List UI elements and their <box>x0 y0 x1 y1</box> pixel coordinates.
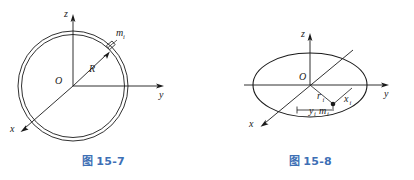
radius-arrow-head <box>103 51 110 59</box>
z-axis-label: z <box>63 8 68 19</box>
caption-prefix-left: 图 <box>82 155 93 168</box>
figure-15-7: z y x O R m i 图15-7 <box>0 0 207 180</box>
x-coordinate-label: x <box>343 93 349 104</box>
y-axis-label: y <box>158 89 164 100</box>
radial-distance-label: r <box>317 90 321 101</box>
caption-prefix-right: 图 <box>289 155 300 168</box>
figure-15-8-caption: 图15-8 <box>207 152 414 168</box>
figure-15-8-drawing: z y x O r i y i x i <box>207 0 414 152</box>
origin-label: O <box>55 75 62 86</box>
y-axis-label: y <box>383 88 389 99</box>
x-axis-label: x <box>248 118 254 129</box>
mass-element-subscript: i <box>123 33 125 40</box>
mass-element-leader-line <box>113 40 117 44</box>
radius-label: R <box>88 63 95 74</box>
figure-15-7-drawing: z y x O R m i <box>0 0 207 152</box>
y-coordinate-subscript: i <box>314 110 316 117</box>
radial-distance-line <box>310 85 332 103</box>
figure-15-8: z y x O r i y i x i <box>207 0 414 180</box>
radial-distance-subscript: i <box>323 96 325 103</box>
x-axis-line <box>25 86 73 128</box>
figure-page: z y x O R m i 图15-7 <box>0 0 414 180</box>
caption-number-left: 15-7 <box>96 155 125 168</box>
x-axis-label: x <box>9 123 15 134</box>
z-axis-label: z <box>300 28 305 39</box>
figure-15-7-caption: 图15-7 <box>0 152 207 168</box>
x-coordinate-subscript: i <box>350 99 352 106</box>
mass-element-label: m <box>319 105 326 116</box>
caption-number-right: 15-8 <box>303 155 332 168</box>
origin-label: O <box>299 71 306 82</box>
mass-element-subscript: i <box>327 110 329 117</box>
